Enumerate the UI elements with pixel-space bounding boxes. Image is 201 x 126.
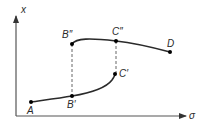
label-B-prime: B′	[67, 99, 77, 110]
label-C-prime: C′	[119, 68, 129, 79]
y-axis-label: x	[20, 4, 27, 15]
point-A	[29, 100, 33, 104]
point-C-prime	[113, 72, 117, 76]
label-A: A	[26, 105, 34, 116]
point-B-double-prime	[70, 42, 74, 46]
upper-branch-curve	[72, 39, 170, 52]
lower-branch-curve	[31, 74, 115, 102]
label-B-double-prime: B″	[62, 29, 73, 40]
point-C-double-prime	[114, 39, 118, 43]
x-axis-label: σ	[189, 110, 196, 121]
hysteresis-diagram: x σ A B′ C′ B″ C″ D	[0, 0, 201, 126]
point-D	[168, 50, 172, 54]
label-D: D	[167, 38, 174, 49]
label-C-double-prime: C″	[112, 26, 123, 37]
point-B-prime	[70, 94, 74, 98]
